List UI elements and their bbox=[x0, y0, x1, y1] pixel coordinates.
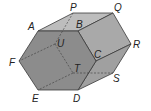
label-F: F bbox=[9, 57, 16, 68]
label-B: B bbox=[76, 19, 83, 30]
label-D: D bbox=[73, 93, 80, 104]
label-C: C bbox=[94, 49, 102, 60]
label-R: R bbox=[133, 39, 140, 50]
label-E: E bbox=[32, 93, 39, 104]
label-U: U bbox=[57, 38, 65, 49]
label-T: T bbox=[74, 63, 81, 74]
label-S: S bbox=[113, 73, 120, 84]
hexagonal-prism-diagram: P Q A B U R F C T S E D bbox=[0, 0, 151, 111]
label-P: P bbox=[70, 2, 77, 13]
label-A: A bbox=[27, 21, 35, 32]
label-Q: Q bbox=[114, 2, 122, 13]
